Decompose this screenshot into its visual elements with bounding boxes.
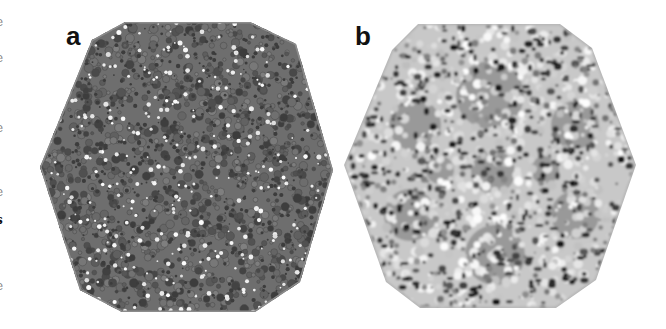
shadow-speck [157, 228, 161, 232]
highlight-residue [316, 249, 321, 254]
light-blob [379, 60, 385, 66]
protein-blob [237, 176, 241, 180]
shadow-speck [252, 298, 256, 302]
protein-blob [85, 139, 92, 146]
shadow-speck [314, 84, 316, 86]
shadow-speck [333, 281, 336, 284]
protein-blob [55, 280, 59, 284]
protein-blob [142, 250, 145, 253]
dark-pore [635, 292, 638, 299]
shadow-speck [120, 140, 123, 143]
shadow-speck [330, 133, 333, 136]
highlight-residue [207, 257, 211, 261]
protein-blob [192, 43, 197, 48]
dark-pore [445, 95, 453, 101]
mid-tone-blob [557, 107, 561, 111]
highlight-residue [225, 86, 228, 89]
light-blob [585, 126, 589, 130]
dark-pore [383, 151, 386, 158]
highlight-residue [177, 314, 181, 318]
dark-pore [374, 107, 379, 112]
mid-tone-blob [364, 121, 367, 124]
protein-blob [88, 298, 94, 304]
light-blob [633, 176, 636, 179]
mid-tone-blob [539, 133, 542, 136]
protein-blob [319, 117, 324, 122]
highlight-residue [63, 193, 65, 195]
light-blob [626, 189, 635, 198]
highlight-residue [78, 220, 82, 224]
shadow-speck [50, 287, 53, 290]
protein-blob [283, 152, 287, 156]
dark-pore [632, 49, 638, 52]
shadow-speck [143, 123, 147, 127]
dark-pore [606, 85, 614, 88]
protein-blob [323, 53, 331, 61]
shadow-speck [49, 36, 52, 39]
dark-pore [523, 85, 530, 88]
shadow-speck [121, 104, 124, 107]
mid-tone-blob [567, 274, 572, 279]
shadow-speck [147, 91, 150, 94]
mid-tone-blob [626, 71, 630, 75]
shadow-speck [254, 95, 257, 98]
highlight-residue [304, 32, 309, 37]
protein-blob [221, 160, 228, 167]
highlight-residue [124, 267, 127, 270]
dark-pore [573, 301, 579, 305]
protein-blob [247, 233, 253, 239]
highlight-residue [251, 35, 255, 39]
light-blob [353, 266, 362, 275]
protein-blob [305, 63, 309, 67]
protein-blob [328, 50, 333, 55]
dark-pore [567, 306, 571, 312]
protein-blob [37, 96, 42, 101]
protein-blob [40, 108, 46, 114]
mid-tone-blob [358, 85, 363, 90]
light-blob [581, 133, 585, 137]
protein-blob [79, 299, 87, 307]
shadow-speck [114, 117, 118, 121]
light-blob [420, 238, 429, 247]
protein-blob [207, 213, 210, 216]
shadow-speck [327, 147, 331, 151]
dark-pore [582, 292, 586, 297]
shadow-speck [264, 157, 268, 161]
protein-blob [249, 62, 258, 71]
protein-blob [58, 127, 62, 131]
protein-blob [227, 199, 234, 206]
mid-tone-blob [453, 299, 458, 304]
protein-blob [257, 280, 260, 283]
protein-blob [46, 89, 50, 93]
protein-blob [255, 135, 260, 140]
dark-pore [442, 272, 447, 275]
protein-blob [214, 151, 217, 154]
protein-blob [42, 102, 46, 106]
highlight-residue [49, 38, 52, 41]
shadow-speck [78, 199, 81, 202]
dark-pore [462, 273, 466, 279]
protein-blob [313, 74, 322, 83]
protein-blob [200, 239, 205, 244]
shadow-speck [183, 17, 187, 21]
protein-blob [51, 21, 55, 25]
shadow-speck [193, 40, 196, 43]
highlight-residue [146, 272, 148, 274]
protein-blob [151, 56, 155, 60]
highlight-residue [106, 52, 111, 57]
highlight-residue [324, 217, 326, 219]
light-blob [355, 68, 359, 72]
protein-blob [251, 119, 254, 122]
highlight-residue [149, 167, 154, 172]
shadow-speck [124, 64, 127, 67]
protein-blob [136, 193, 140, 197]
dark-pore [371, 165, 378, 170]
light-blob [368, 294, 375, 301]
dark-pore [448, 19, 456, 22]
shadow-speck [76, 293, 80, 297]
dark-pore [573, 209, 577, 213]
light-blob [405, 270, 408, 273]
shadow-speck [191, 20, 193, 22]
light-blob [438, 158, 442, 162]
mid-tone-blob [555, 84, 558, 87]
